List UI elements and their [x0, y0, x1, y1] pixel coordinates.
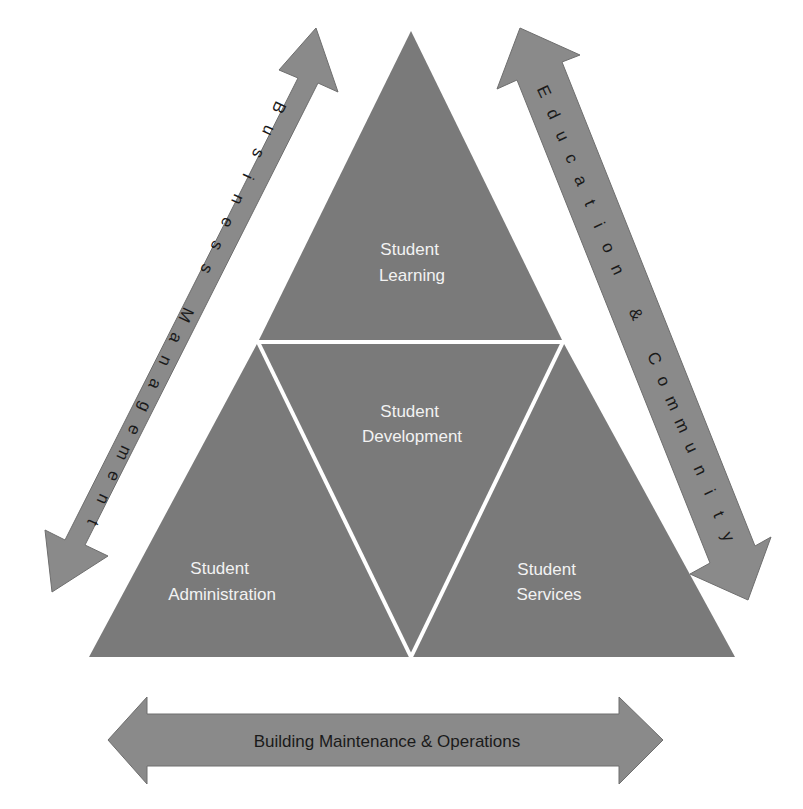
building-maintenance-label: Building Maintenance & Operations	[254, 732, 521, 751]
building-maintenance-arrow: Building Maintenance & Operations	[108, 697, 663, 784]
triangle-diagram: Business Management Education & Communit…	[0, 0, 803, 809]
